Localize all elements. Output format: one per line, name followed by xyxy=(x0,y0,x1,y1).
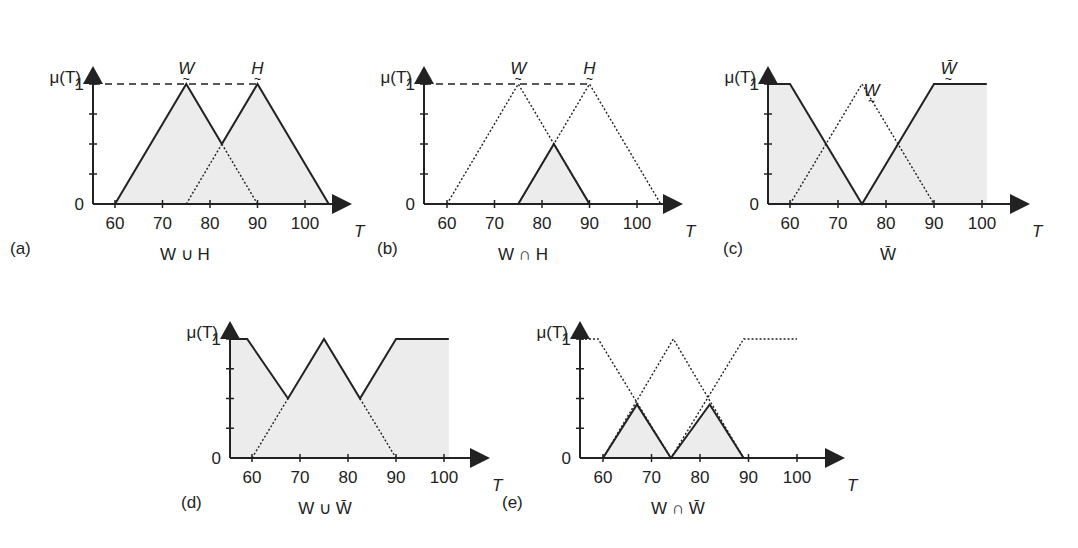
shaded-region-d xyxy=(231,339,449,458)
x-tick-label: 100 xyxy=(783,468,811,487)
fuzzy-tilde-icon: ~ xyxy=(254,72,261,86)
panel-caption: W ∪ W̄ xyxy=(298,499,352,518)
x-axis-arrow-icon xyxy=(1010,194,1030,214)
x-axis-arrow-icon xyxy=(470,448,490,468)
x-tick-label: 100 xyxy=(291,214,319,233)
x-tick-label: 60 xyxy=(243,468,262,487)
y-tick-label: 0 xyxy=(406,195,415,214)
x-tick-label: 90 xyxy=(580,214,599,233)
x-tick-label: 60 xyxy=(594,468,613,487)
y-tick-label: 0 xyxy=(75,195,84,214)
x-tick-label: 90 xyxy=(925,214,944,233)
panel-a: 0160708090100Tμ(T)W~H~(a)W ∪ H xyxy=(10,59,366,264)
y-axis-arrow-icon xyxy=(570,321,590,339)
y-axis-arrow-icon xyxy=(220,321,240,339)
x-tick-label: 60 xyxy=(781,214,800,233)
panel-caption: W ∩ W̄ xyxy=(651,499,705,518)
x-tick-label: 90 xyxy=(739,468,758,487)
x-tick-label: 60 xyxy=(106,214,125,233)
panel-letter: (d) xyxy=(181,493,202,512)
x-tick-label: 90 xyxy=(387,468,406,487)
x-tick-label: 70 xyxy=(291,468,310,487)
y-axis-arrow-icon xyxy=(758,66,778,84)
fuzzy-tilde-icon: ~ xyxy=(945,72,952,86)
x-axis-title: T xyxy=(1032,222,1044,241)
y-axis-title: μ(T) xyxy=(186,323,218,342)
x-axis-arrow-icon xyxy=(663,194,683,214)
panel-d: 0160708090100Tμ(T)(d)W ∪ W̄ xyxy=(181,321,504,518)
fuzzy-tilde-icon: ~ xyxy=(183,72,190,86)
shaded-region-b xyxy=(518,144,589,204)
x-tick-label: 70 xyxy=(153,214,172,233)
panel-caption: W ∪ H xyxy=(160,245,210,264)
y-tick-label: 0 xyxy=(212,449,221,468)
fuzzy-set-operations-figure: 0160708090100Tμ(T)W~H~(a)W ∪ H0160708090… xyxy=(0,0,1078,548)
y-tick-label: 0 xyxy=(562,449,571,468)
x-axis-arrow-icon xyxy=(825,448,845,468)
fuzzy-tilde-icon: ~ xyxy=(515,72,522,86)
panel-letter: (e) xyxy=(502,493,523,512)
fuzzy-tilde-icon: ~ xyxy=(868,94,875,108)
x-tick-label: 80 xyxy=(339,468,358,487)
y-axis-title: μ(T) xyxy=(49,68,81,87)
y-axis-arrow-icon xyxy=(83,66,103,84)
y-axis-title: μ(T) xyxy=(380,68,412,87)
y-axis-arrow-icon xyxy=(414,66,434,84)
panel-b: 0160708090100Tμ(T)W~H~(b)W ∩ H xyxy=(377,59,697,264)
x-tick-label: 90 xyxy=(248,214,267,233)
x-tick-label: 100 xyxy=(623,214,651,233)
x-tick-label: 60 xyxy=(438,214,457,233)
panel-c: 0160708090100Tμ(T)W~W̄~(c)W̄ xyxy=(723,59,1044,264)
y-axis-title: μ(T) xyxy=(724,68,756,87)
panel-letter: (c) xyxy=(723,239,743,258)
panel-letter: (b) xyxy=(377,239,398,258)
x-tick-label: 70 xyxy=(642,468,661,487)
x-axis-arrow-icon xyxy=(332,194,352,214)
x-tick-label: 80 xyxy=(533,214,552,233)
y-tick-label: 0 xyxy=(750,195,759,214)
x-tick-label: 80 xyxy=(691,468,710,487)
y-axis-title: μ(T) xyxy=(536,323,568,342)
panel-caption: W ∩ H xyxy=(498,245,548,264)
x-axis-title: T xyxy=(354,222,366,241)
panel-e: 0160708090100Tμ(T)(e)W ∩ W̄ xyxy=(502,321,859,518)
panel-letter: (a) xyxy=(10,239,31,258)
x-tick-label: 100 xyxy=(430,468,458,487)
x-tick-label: 70 xyxy=(485,214,504,233)
x-tick-label: 70 xyxy=(829,214,848,233)
x-tick-label: 80 xyxy=(877,214,896,233)
panel-caption: W̄ xyxy=(880,245,896,264)
shaded-region-e xyxy=(603,404,744,458)
x-tick-label: 100 xyxy=(968,214,996,233)
x-tick-label: 80 xyxy=(201,214,220,233)
x-axis-title: T xyxy=(685,222,697,241)
x-axis-title: T xyxy=(847,476,859,495)
fuzzy-tilde-icon: ~ xyxy=(586,72,593,86)
